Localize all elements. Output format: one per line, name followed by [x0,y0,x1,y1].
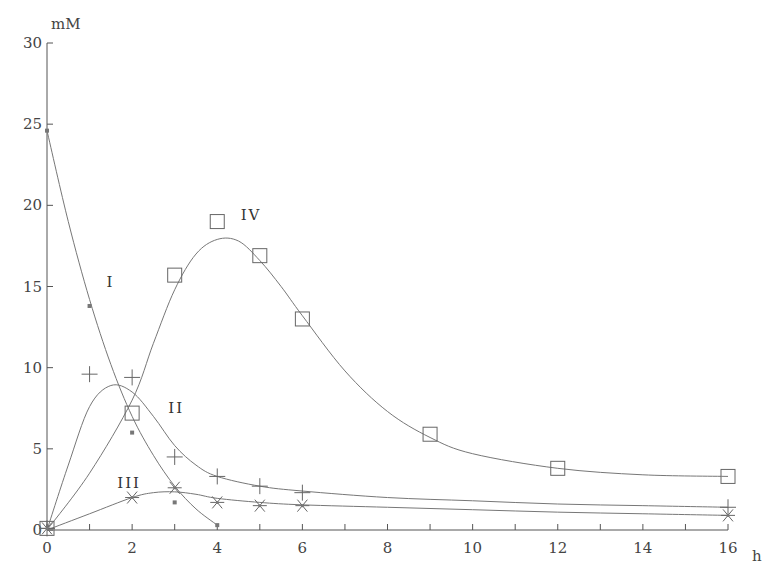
x-axis-label: h [752,547,762,565]
marker-iii-icon [125,492,139,504]
marker-ii-icon [82,366,98,382]
x-tick-label: 16 [718,539,737,557]
marker-iv-icon [210,215,224,229]
curve-i [47,131,217,525]
series-labels: IIIIIIIV [107,206,262,492]
chart-canvas: 0246810121416051015202530mMh IIIIIIIV [0,0,778,585]
y-tick-label: 10 [23,359,42,377]
y-tick-label: 20 [23,196,42,214]
marker-iv-icon [423,427,437,441]
series-label-iii: III [117,474,141,492]
curve-iv [47,238,728,530]
marker-i-icon [130,431,134,435]
x-tick-label: 8 [383,539,393,557]
y-axis-label: mM [51,15,81,33]
marker-iv-icon [295,312,309,326]
marker-ii-icon [252,478,268,494]
curve-ii [47,385,728,530]
marker-ii-icon [209,468,225,484]
y-tick-label: 15 [23,278,42,296]
marker-iii-icon [295,500,309,512]
y-tick-label: 5 [32,440,42,458]
marker-ii-icon [720,499,736,515]
marker-i-icon [88,304,92,308]
marker-ii-icon [124,369,140,385]
fit-curves [47,131,728,530]
marker-i-icon [215,523,219,527]
x-tick-label: 6 [298,539,308,557]
x-tick-label: 14 [633,539,652,557]
y-tick-label: 30 [23,34,42,52]
marker-iii-icon [253,500,267,512]
series-label-ii: II [168,399,184,417]
series-label-i: I [107,273,115,291]
marker-i-icon [173,500,177,504]
x-tick-label: 2 [127,539,137,557]
x-tick-label: 0 [42,539,52,557]
x-tick-label: 12 [548,539,567,557]
data-markers [39,129,736,537]
y-tick-label: 0 [32,521,42,539]
series-label-iv: IV [241,206,262,224]
x-tick-label: 10 [463,539,482,557]
marker-i-icon [45,129,49,133]
x-tick-label: 4 [212,539,222,557]
marker-iv-icon [125,406,139,420]
marker-ii-icon [294,485,310,501]
y-tick-label: 25 [23,115,42,133]
